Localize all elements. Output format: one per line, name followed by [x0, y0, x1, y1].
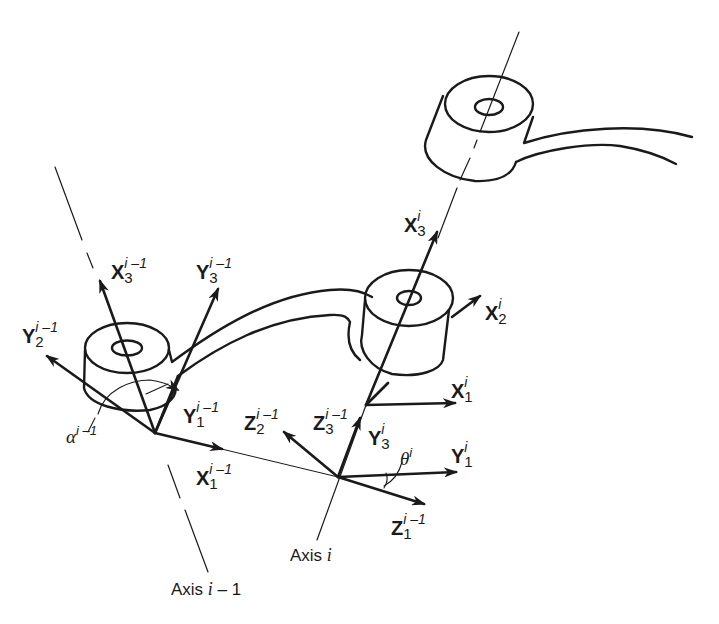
label-y1-i-minus-1: Yi –11 — [183, 406, 219, 429]
next-joint-cylinder — [425, 76, 692, 181]
label-x1-i: Xi1 — [451, 381, 473, 404]
label-alpha-i-minus-1: αi –1 — [66, 424, 97, 446]
joint-i-cylinder — [361, 270, 453, 375]
label-x1-i-minus-1: Xi –11 — [196, 468, 232, 491]
label-z1-i-minus-1: Zi –11 — [391, 518, 426, 541]
joint-i-minus-1-cylinder — [84, 290, 372, 411]
dh-frames-diagram: Xi –13 Yi –13 Yi –12 Yi –11 Xi –11 Zi –1… — [0, 0, 719, 624]
label-x2-i: Xi2 — [485, 303, 507, 326]
label-axis-i: Axis i — [290, 546, 332, 564]
axis-i-line — [317, 32, 519, 540]
label-theta-i: θi — [400, 446, 412, 468]
label-x3-i: Xi3 — [404, 215, 426, 238]
label-x3-i-minus-1: Xi –13 — [111, 262, 147, 285]
diagram-drawing — [0, 0, 719, 624]
label-y1-i: Yi1 — [451, 446, 473, 469]
label-z2-i-minus-1: Zi –12 — [244, 413, 279, 436]
label-axis-i-minus-1: Axis i – 1 — [171, 580, 241, 598]
label-z3-i-minus-1: Zi –13 — [313, 413, 348, 436]
label-y3-i: Yi3 — [368, 428, 390, 451]
label-y3-i-minus-1: Yi –13 — [196, 262, 232, 285]
label-y2-i-minus-1: Yi –12 — [22, 326, 58, 349]
